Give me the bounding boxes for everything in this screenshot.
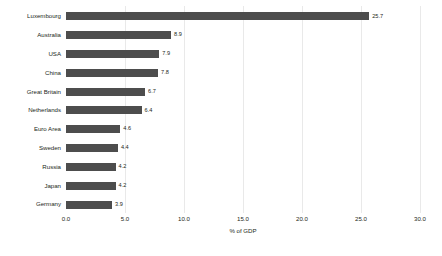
bar-value-label: 6.4 bbox=[145, 108, 153, 114]
x-axis-tick-label: 25.0 bbox=[355, 216, 367, 222]
bar-value-label: 7.9 bbox=[162, 51, 170, 57]
bar bbox=[66, 69, 158, 77]
bar-row: 4.6 bbox=[66, 119, 420, 140]
bar-row: 4.2 bbox=[66, 157, 420, 178]
category-axis: LuxembourgAustraliaUSAChinaGreat Britain… bbox=[0, 6, 61, 213]
bar-row: 7.8 bbox=[66, 62, 420, 83]
x-axis-tick-label: 15.0 bbox=[237, 216, 249, 222]
x-axis-tick-label: 20.0 bbox=[296, 216, 308, 222]
category-label: China bbox=[45, 62, 61, 83]
bar-row: 25.7 bbox=[66, 6, 420, 27]
x-axis-tick-label: 0.0 bbox=[62, 216, 70, 222]
category-label: Great Britain bbox=[27, 81, 61, 102]
bar-row: 8.9 bbox=[66, 25, 420, 46]
bar bbox=[66, 106, 142, 114]
bar bbox=[66, 144, 118, 152]
x-axis-tick-label: 30.0 bbox=[414, 216, 426, 222]
gridline bbox=[420, 6, 421, 213]
bar bbox=[66, 50, 159, 58]
bar-row: 3.9 bbox=[66, 194, 420, 215]
x-axis-label: % of GDP bbox=[66, 228, 420, 234]
bar-value-label: 25.7 bbox=[372, 14, 383, 20]
bar-value-label: 3.9 bbox=[115, 202, 123, 208]
category-label: USA bbox=[48, 44, 61, 65]
bar-chart: LuxembourgAustraliaUSAChinaGreat Britain… bbox=[0, 0, 442, 256]
bar-row: 6.7 bbox=[66, 81, 420, 102]
category-label: Japan bbox=[44, 175, 61, 196]
bar-row: 4.4 bbox=[66, 138, 420, 159]
bar bbox=[66, 163, 116, 171]
bar bbox=[66, 12, 369, 20]
bar-value-label: 4.4 bbox=[121, 145, 129, 151]
bar bbox=[66, 88, 145, 96]
bar-row: 4.2 bbox=[66, 175, 420, 196]
category-label: Russia bbox=[42, 157, 61, 178]
bar-value-label: 6.7 bbox=[148, 89, 156, 95]
category-label: Luxembourg bbox=[27, 6, 61, 27]
bar-value-label: 8.9 bbox=[174, 32, 182, 38]
bar-value-label: 4.6 bbox=[123, 126, 131, 132]
category-label: Australia bbox=[37, 25, 61, 46]
bar bbox=[66, 182, 116, 190]
bar bbox=[66, 201, 112, 209]
bar-value-label: 4.2 bbox=[119, 183, 127, 189]
bar bbox=[66, 31, 171, 39]
bar-row: 6.4 bbox=[66, 100, 420, 121]
bar-value-label: 4.2 bbox=[119, 164, 127, 170]
category-label: Euro Area bbox=[34, 119, 61, 140]
bar-row: 7.9 bbox=[66, 44, 420, 65]
x-axis-tick-label: 10.0 bbox=[178, 216, 190, 222]
category-label: Germany bbox=[36, 194, 61, 215]
bar bbox=[66, 125, 120, 133]
plot-area: 25.78.97.97.86.76.44.64.44.24.23.9 bbox=[66, 6, 420, 213]
category-label: Netherlands bbox=[28, 100, 61, 121]
x-axis-tick-label: 5.0 bbox=[121, 216, 129, 222]
bar-rows: 25.78.97.97.86.76.44.64.44.24.23.9 bbox=[66, 6, 420, 213]
bar-value-label: 7.8 bbox=[161, 70, 169, 76]
category-label: Sweden bbox=[39, 138, 61, 159]
